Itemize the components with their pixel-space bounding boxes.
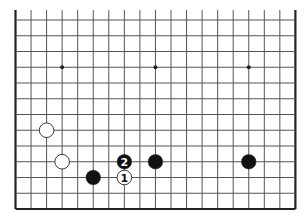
stone-icon — [86, 170, 101, 185]
white-stone: 1 — [117, 170, 132, 185]
black-stone — [148, 154, 163, 169]
white-stone — [39, 123, 54, 138]
star-point-icon — [247, 65, 251, 69]
star-point-icon — [60, 65, 64, 69]
black-stone: 2 — [117, 154, 132, 169]
stone-icon — [55, 154, 70, 169]
stone-icon — [148, 154, 163, 169]
move-number-label: 1 — [121, 172, 129, 185]
go-board: 12 — [0, 0, 304, 223]
black-stone — [241, 154, 256, 169]
star-point-icon — [153, 65, 157, 69]
black-stone — [86, 170, 101, 185]
move-number-label: 2 — [121, 156, 129, 169]
stones: 12 — [39, 123, 256, 185]
stone-icon — [39, 123, 54, 138]
white-stone — [55, 154, 70, 169]
board-grid — [16, 10, 296, 209]
stone-icon — [241, 154, 256, 169]
